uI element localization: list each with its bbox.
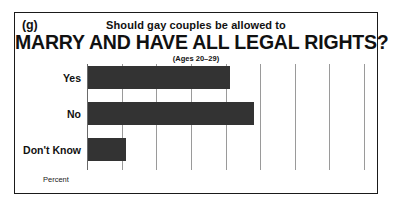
category-label: Yes xyxy=(63,72,81,84)
gridline-60 xyxy=(295,64,296,170)
category-label: Don't Know xyxy=(23,144,81,156)
plot-area: 01020304050607080 xyxy=(87,64,364,170)
bar xyxy=(88,102,254,125)
x-axis-title: Percent xyxy=(43,175,69,184)
gridline-50 xyxy=(260,64,261,170)
gridline-80 xyxy=(364,64,365,170)
bar xyxy=(88,66,230,89)
chart-title-line-1: Should gay couples be allowed to xyxy=(15,19,377,31)
chart-figure: (g) Should gay couples be allowed to MAR… xyxy=(14,12,378,194)
chart-subtitle: (Ages 20–29) xyxy=(15,54,377,63)
category-label: No xyxy=(67,108,81,120)
chart-title-line-2: MARRY AND HAVE ALL LEGAL RIGHTS? xyxy=(15,31,377,54)
gridline-70 xyxy=(329,64,330,170)
bar xyxy=(88,138,126,161)
